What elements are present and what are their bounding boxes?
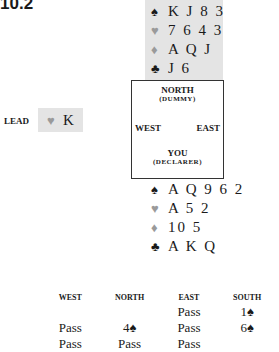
- north-label: NORTH(DUMMY): [132, 85, 223, 103]
- club-icon: ♣: [151, 59, 168, 78]
- declarer-diamonds: ♦10 5: [151, 218, 244, 237]
- dummy-diamonds: ♦A Q J: [151, 40, 225, 59]
- diamond-icon: ♦: [151, 218, 168, 237]
- heart-icon: ♥: [151, 199, 168, 218]
- diamond-icon: ♦: [151, 40, 168, 59]
- heart-icon: ♥: [38, 109, 63, 133]
- spade-icon: ♠: [151, 180, 168, 199]
- dummy-hand: ♠K J 8 3 ♥7 6 4 3 ♦A Q J ♣J 6: [151, 2, 225, 78]
- bidding-row: Pass 4♠ Pass 6♠: [44, 320, 279, 336]
- dummy-clubs: ♣J 6: [151, 59, 225, 78]
- declarer-clubs: ♣A K Q: [151, 237, 244, 256]
- compass-box: NORTH(DUMMY) WEST EAST YOU(DECLARER): [131, 80, 224, 179]
- bidding-row: Pass 1♠: [44, 304, 279, 320]
- declarer-spades: ♠A Q 9 6 2: [151, 180, 244, 199]
- bidding-row: Pass Pass Pass: [44, 336, 279, 352]
- declarer-hand: ♠A Q 9 6 2 ♥A 5 2 ♦10 5 ♣A K Q: [151, 180, 244, 256]
- east-label: EAST: [196, 123, 220, 133]
- club-icon: ♣: [151, 237, 168, 256]
- dummy-spades: ♠K J 8 3: [151, 2, 225, 21]
- south-label: YOU(DECLARER): [132, 148, 223, 166]
- bidding-table: WEST NORTH EAST SOUTH Pass 1♠ Pass 4♠ Pa…: [44, 290, 279, 352]
- heart-icon: ♥: [151, 21, 168, 40]
- declarer-hearts: ♥A 5 2: [151, 199, 244, 218]
- bidding-header: WEST NORTH EAST SOUTH: [44, 290, 279, 304]
- problem-number: 10.2: [0, 0, 33, 14]
- opening-lead-card: ♥K: [38, 108, 83, 132]
- spade-icon: ♠: [151, 2, 168, 21]
- lead-label: LEAD: [4, 116, 29, 126]
- west-label: WEST: [135, 123, 161, 133]
- dummy-hearts: ♥7 6 4 3: [151, 21, 225, 40]
